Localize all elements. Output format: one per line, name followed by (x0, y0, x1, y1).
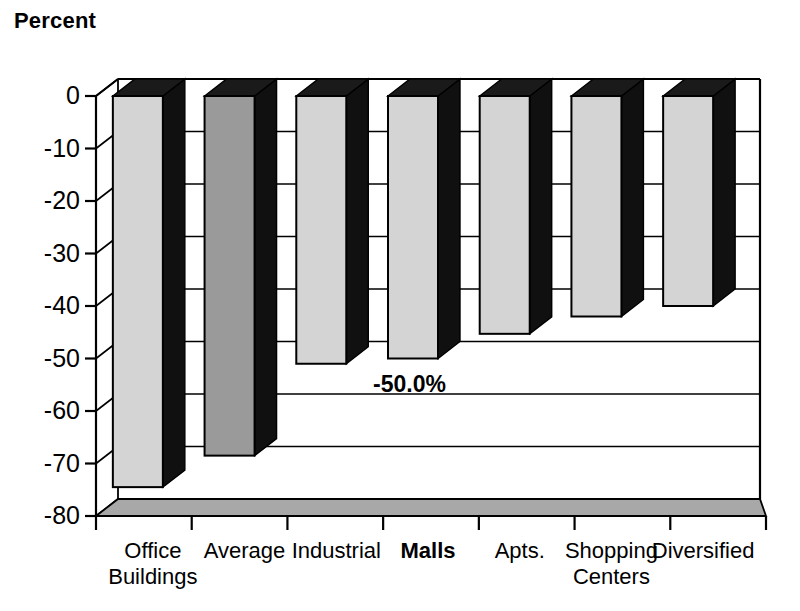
bar-side-6 (713, 79, 735, 306)
x-axis-label-line2: Centers (559, 564, 665, 590)
x-axis-label-line1: Industrial (283, 538, 389, 564)
plot-top-left-corner (96, 79, 118, 96)
bar-office-buildings[interactable] (113, 96, 163, 487)
x-axis-label-diversified: Diversified (650, 538, 756, 564)
x-axis-label-malls: Malls (375, 538, 481, 564)
bar-average[interactable] (205, 96, 255, 456)
x-axis-label-apts-: Apts. (467, 538, 573, 564)
bar-shopping-centers[interactable] (571, 96, 621, 317)
bar-side-2 (346, 79, 368, 364)
bar-side-3 (438, 79, 460, 359)
x-axis-label-shopping-centers: ShoppingCenters (559, 538, 665, 590)
x-axis-label-line1: Diversified (650, 538, 756, 564)
x-axis-label-office-buildings: OfficeBuildings (100, 538, 206, 590)
chart-plot-area (0, 0, 800, 611)
x-axis-label-line1: Shopping (559, 538, 665, 564)
bar-side-4 (530, 79, 552, 334)
bar-side-0 (163, 79, 185, 487)
x-axis-label-line2: Buildings (100, 564, 206, 590)
bar-side-1 (255, 79, 277, 456)
x-axis-label-average: Average (192, 538, 298, 564)
plot-floor (96, 499, 766, 516)
bar-apts-[interactable] (480, 96, 530, 334)
bar-diversified[interactable] (663, 96, 713, 306)
bar-industrial[interactable] (296, 96, 346, 364)
x-axis-label-line1: Malls (375, 538, 481, 564)
bar-malls[interactable] (388, 96, 438, 359)
x-axis-label-industrial: Industrial (283, 538, 389, 564)
x-axis-category-labels: OfficeBuildingsAverageIndustrialMallsApt… (96, 538, 760, 610)
data-label-malls: -50.0% (373, 371, 446, 398)
bar-side-5 (621, 79, 643, 317)
x-axis-label-line1: Office (100, 538, 206, 564)
x-axis-label-line1: Apts. (467, 538, 573, 564)
chart-root: Percent 0-10-20-30-40-50-60-70-80 -50.0%… (0, 0, 800, 611)
x-axis-label-line1: Average (192, 538, 298, 564)
